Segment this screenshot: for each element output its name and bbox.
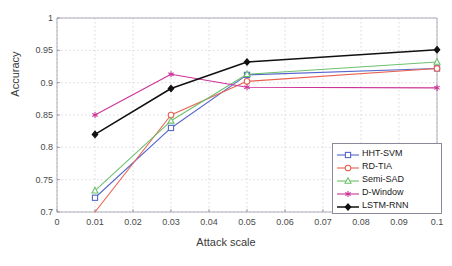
series-lstm-rnn	[92, 46, 440, 137]
legend-marker-icon	[335, 199, 361, 211]
x-tick-label: 0	[54, 217, 59, 227]
data-point-marker	[434, 66, 440, 72]
legend-item-d-window[interactable]: D-Window	[335, 185, 439, 198]
data-point-marker	[345, 152, 350, 157]
x-tick-label: 0.09	[390, 217, 408, 227]
legend-item-lstm-rnn[interactable]: LSTM-RNN	[335, 198, 439, 211]
x-tick-label: 0.05	[238, 217, 256, 227]
data-point-marker	[345, 165, 351, 171]
legend-label: HHT-SVM	[361, 147, 403, 159]
data-point-marker	[168, 85, 174, 91]
legend-marker-icon	[335, 147, 361, 159]
data-point-marker	[434, 59, 440, 64]
x-tick-label: 0.1	[431, 217, 444, 227]
data-point-marker	[244, 79, 250, 85]
x-tick-label: 0.08	[352, 217, 370, 227]
y-tick-label: 0.95	[23, 45, 53, 55]
x-tick-label: 0.03	[162, 217, 180, 227]
legend-item-hht-svm[interactable]: HHT-SVM	[335, 146, 439, 159]
y-tick-label: 0.8	[23, 142, 53, 152]
legend-label: Semi-SAD	[361, 173, 404, 185]
data-point-marker	[92, 131, 98, 137]
data-point-marker	[244, 59, 250, 65]
legend-marker-icon	[335, 173, 361, 185]
y-tick-label: 0.75	[23, 175, 53, 185]
x-axis-label: Attack scale	[0, 236, 452, 248]
x-tick-label: 0.07	[314, 217, 332, 227]
x-tick-label: 0.04	[200, 217, 218, 227]
legend-marker-icon	[335, 186, 361, 198]
y-tick-label: 0.7	[23, 207, 53, 217]
x-tick-label: 0.06	[276, 217, 294, 227]
x-tick-label: 0.01	[86, 217, 104, 227]
series-d-window	[92, 71, 439, 118]
data-point-marker	[168, 125, 173, 130]
accuracy-vs-attack-scale-chart: 00.010.020.030.040.050.060.070.080.090.1…	[0, 0, 452, 266]
y-axis-label: Accuracy	[9, 19, 21, 129]
data-point-marker	[434, 46, 440, 52]
legend-marker-icon	[335, 160, 361, 172]
y-tick-label: 0.85	[23, 110, 53, 120]
series-line	[95, 50, 437, 135]
y-tick-label: 0.9	[23, 78, 53, 88]
legend-label: RD-TIA	[361, 160, 392, 172]
data-point-marker	[345, 203, 351, 209]
x-tick-label: 0.02	[124, 217, 142, 227]
plot-canvas	[0, 0, 452, 266]
legend-label: D-Window	[361, 186, 404, 198]
y-tick-label: 1	[23, 13, 53, 23]
legend-label: LSTM-RNN	[361, 199, 409, 211]
chart-legend: HHT-SVMRD-TIASemi-SADD-WindowLSTM-RNN	[332, 143, 442, 214]
data-point-marker	[345, 177, 351, 183]
legend-item-rd-tia[interactable]: RD-TIA	[335, 159, 439, 172]
legend-item-semi-sad[interactable]: Semi-SAD	[335, 172, 439, 185]
data-point-marker	[92, 195, 97, 200]
